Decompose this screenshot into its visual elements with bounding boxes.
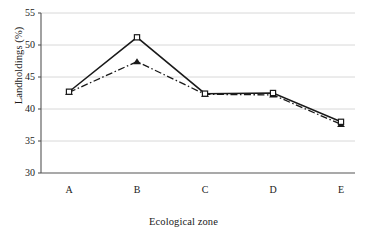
series-1-point — [202, 91, 207, 96]
series-1-point — [338, 119, 343, 124]
series-1-markers — [66, 35, 343, 125]
plot-area — [0, 0, 367, 240]
chart-figure: Landholdings (%) Ecological zone 55 50 4… — [0, 0, 367, 240]
series-1-point — [270, 90, 275, 95]
series-2-point — [133, 58, 141, 64]
series-1-point — [66, 89, 71, 94]
series-1-point — [134, 35, 139, 40]
axis-frame — [38, 13, 355, 173]
